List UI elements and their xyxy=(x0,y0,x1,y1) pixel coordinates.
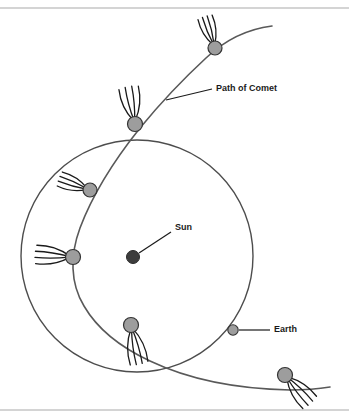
comet-orbit-diagram: Path of CometSunEarth xyxy=(0,0,349,419)
comet-6-body xyxy=(278,368,293,383)
comet-1-tail-strand xyxy=(198,20,213,45)
comet-1-body xyxy=(208,41,222,55)
comet-3 xyxy=(57,172,97,197)
diagram-canvas: Path of CometSunEarth xyxy=(0,0,349,419)
comet-4-tail-strand xyxy=(37,245,70,256)
comet-2-body xyxy=(128,117,143,132)
comet-4-tail-strand xyxy=(35,257,69,258)
comet-2 xyxy=(119,86,143,131)
comet-6 xyxy=(278,368,317,409)
comet-4-body xyxy=(66,250,81,265)
comet-5-body xyxy=(124,318,139,333)
sun-marker xyxy=(127,251,140,264)
comet-path-label: Path of Comet xyxy=(216,83,277,93)
comet-5-tail-strand xyxy=(128,329,131,365)
sun-label: Sun xyxy=(175,222,192,232)
comet-2-tail-strand xyxy=(135,86,140,120)
comet-1 xyxy=(198,15,222,55)
earth-marker xyxy=(228,325,238,335)
comet-trajectory xyxy=(73,26,330,390)
earth-label: Earth xyxy=(274,324,297,334)
sun-leader xyxy=(139,232,171,253)
comet-3-body xyxy=(83,183,97,197)
comet-3-tail-strand xyxy=(62,172,87,188)
